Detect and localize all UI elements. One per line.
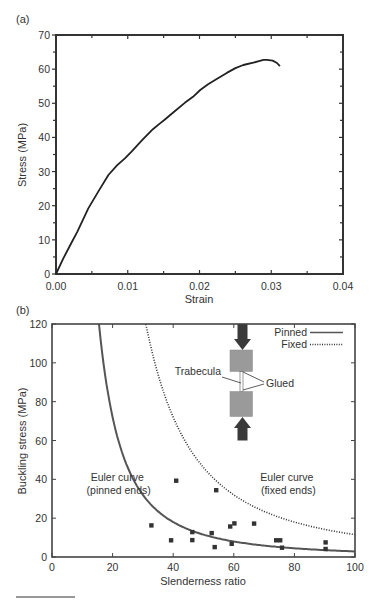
panel-a-x-axis-title: Strain — [185, 293, 214, 305]
panel-b-ticks — [52, 324, 355, 557]
stress-strain-curve — [56, 60, 280, 274]
data-point — [228, 524, 232, 528]
annotation-fixed-line-1: Euler curve — [260, 471, 313, 483]
y-tick-label: 40 — [35, 473, 47, 485]
bottom-block — [230, 392, 253, 417]
y-tick-label: 10 — [38, 234, 50, 246]
data-point — [149, 523, 153, 527]
data-point — [169, 538, 173, 542]
panel-a-y-tick-labels: 010203040506070 — [38, 29, 50, 280]
glued-leader-line-top — [243, 372, 264, 382]
y-tick-label: 80 — [35, 396, 47, 408]
x-tick-label: 0.00 — [46, 280, 67, 292]
y-tick-label: 60 — [35, 435, 47, 447]
x-tick-label: 20 — [107, 561, 119, 573]
top-block — [230, 350, 253, 372]
x-tick-label: 0.03 — [261, 280, 282, 292]
inset-diagram: Trabecula Glued — [175, 324, 294, 441]
trabecula-label: Trabecula — [175, 365, 221, 377]
panel-a-frame — [56, 35, 343, 274]
x-tick-label: 0.02 — [189, 280, 210, 292]
bottom-arrow-icon — [234, 417, 251, 441]
panel-a-y-axis-title: Stress (MPa) — [16, 123, 28, 187]
panel-a-label: (a) — [16, 13, 29, 25]
x-tick-label: 100 — [346, 561, 364, 573]
figure: (a) 0.000.010.020.030.04 010203040506070… — [0, 0, 383, 604]
y-tick-label: 120 — [29, 318, 47, 330]
y-tick-label: 0 — [44, 268, 50, 280]
data-point — [214, 488, 218, 492]
glued-label: Glued — [266, 377, 294, 389]
legend-label-fixed: Fixed — [281, 338, 307, 350]
data-point — [213, 545, 217, 549]
panel-b-y-axis-title: Buckling stress (MPa) — [16, 388, 28, 495]
legend-label-pinned: Pinned — [274, 326, 307, 338]
data-point — [232, 521, 236, 525]
glued-leader-line-bottom — [243, 384, 264, 390]
x-tick-label: 0.04 — [333, 280, 354, 292]
trabecula-specimen — [240, 372, 243, 392]
data-point — [280, 546, 284, 550]
data-point — [230, 542, 234, 546]
panel-a-ticks — [52, 35, 343, 274]
data-point — [252, 521, 256, 525]
annotation-pinned-line-2: (pinned ends) — [87, 484, 151, 496]
data-point — [274, 538, 278, 542]
y-tick-label: 50 — [38, 97, 50, 109]
y-tick-label: 40 — [38, 131, 50, 143]
data-point — [190, 530, 194, 534]
data-point — [190, 538, 194, 542]
x-tick-label: 60 — [228, 561, 240, 573]
panel-b-x-tick-labels: 020406080100 — [49, 561, 364, 573]
annotation-pinned: Euler curve (pinned ends) — [87, 471, 151, 496]
trabecula-leader-line — [222, 377, 241, 383]
x-tick-label: 0 — [49, 561, 55, 573]
y-tick-label: 0 — [41, 551, 47, 563]
panel-a-x-tick-labels: 0.000.010.020.030.04 — [46, 280, 354, 292]
y-tick-label: 60 — [38, 63, 50, 75]
data-point — [278, 538, 282, 542]
y-tick-label: 20 — [38, 200, 50, 212]
panel-b-y-tick-labels: 020406080100120 — [29, 318, 47, 563]
panel-b-label: (b) — [16, 304, 29, 316]
x-tick-label: 40 — [167, 561, 179, 573]
y-tick-label: 100 — [29, 357, 47, 369]
x-tick-label: 80 — [289, 561, 301, 573]
y-tick-label: 20 — [35, 512, 47, 524]
y-tick-label: 30 — [38, 166, 50, 178]
panel-b-x-axis-title: Slenderness ratio — [160, 575, 246, 587]
legend: Pinned Fixed — [274, 326, 343, 350]
panel-a: (a) 0.000.010.020.030.04 010203040506070… — [16, 13, 353, 305]
x-tick-label: 0.01 — [118, 280, 139, 292]
top-arrow-icon — [234, 324, 251, 350]
panel-b-frame — [52, 324, 355, 557]
annotation-pinned-line-1: Euler curve — [91, 471, 144, 483]
annotation-fixed: Euler curve (fixed ends) — [260, 471, 316, 496]
y-tick-label: 70 — [38, 29, 50, 41]
data-point — [323, 540, 327, 544]
annotation-fixed-line-2: (fixed ends) — [261, 484, 316, 496]
data-point — [174, 479, 178, 483]
data-point — [323, 547, 327, 551]
data-point — [210, 531, 214, 535]
